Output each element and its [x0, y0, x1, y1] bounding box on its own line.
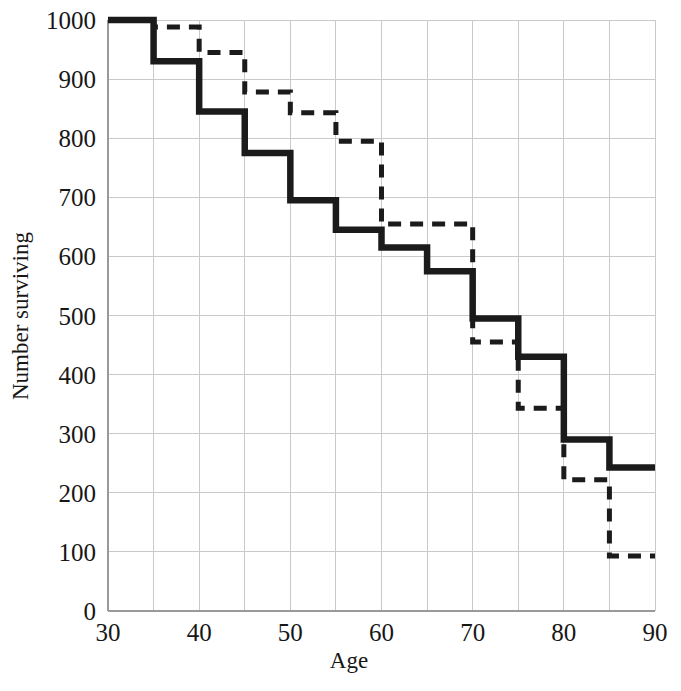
y-tick-label: 800 [59, 125, 97, 152]
x-tick-label: 90 [643, 619, 668, 646]
x-tick-label: 70 [460, 619, 485, 646]
x-tick-label: 30 [96, 619, 121, 646]
x-tick-label: 50 [278, 619, 303, 646]
y-tick-label: 600 [59, 243, 97, 270]
y-axis-title: Number surviving [8, 232, 33, 401]
y-tick-label: 200 [59, 480, 97, 507]
y-tick-label: 900 [59, 66, 97, 93]
y-tick-label: 400 [59, 362, 97, 389]
x-tick-label: 80 [551, 619, 576, 646]
y-tick-label: 300 [59, 421, 97, 448]
y-tick-label: 1000 [46, 7, 96, 34]
x-tick-labels: 30405060708090 [96, 619, 668, 646]
y-tick-labels: 01002003004005006007008009001000 [46, 7, 96, 625]
y-tick-label: 0 [84, 598, 97, 625]
chart-canvas: 01002003004005006007008009001000 3040506… [0, 0, 681, 691]
x-tick-label: 60 [369, 619, 394, 646]
x-tick-label: 40 [187, 619, 212, 646]
y-tick-label: 700 [59, 184, 97, 211]
survival-curve-figure: 01002003004005006007008009001000 3040506… [0, 0, 681, 691]
y-tick-label: 100 [59, 539, 97, 566]
y-tick-label: 500 [59, 303, 97, 330]
x-axis-title: Age [330, 648, 368, 673]
